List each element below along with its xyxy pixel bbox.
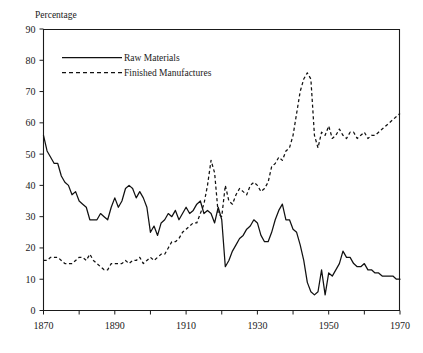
y-tick-label: 40: [26, 180, 36, 191]
y-tick-label: 70: [26, 86, 36, 97]
series-raw-materials: [44, 135, 401, 295]
y-tick-label: 50: [26, 149, 36, 160]
y-tick-label: 30: [26, 211, 36, 222]
figure-container: Percentage 0102030405060708090 187018901…: [0, 0, 423, 353]
y-tick-label: 0: [31, 305, 36, 316]
x-axis-ticks: 187018901910193019501970: [34, 311, 411, 331]
chart-legend: Raw Materials Finished Manufactures: [62, 53, 212, 78]
y-tick-label: 80: [26, 55, 36, 66]
x-tick-label: 1910: [176, 320, 196, 331]
y-tick-label: 90: [26, 24, 36, 35]
x-tick-label: 1890: [105, 320, 125, 331]
x-tick-label: 1870: [34, 320, 54, 331]
y-axis-title: Percentage: [35, 10, 77, 20]
x-tick-label: 1930: [247, 320, 267, 331]
y-tick-label: 60: [26, 117, 36, 128]
plot-frame: [44, 29, 401, 311]
y-tick-label: 20: [26, 242, 36, 253]
legend-label-finished-manufactures: Finished Manufactures: [124, 68, 212, 78]
y-tick-label: 10: [26, 274, 36, 285]
line-chart: Percentage 0102030405060708090 187018901…: [0, 0, 423, 353]
y-axis-ticks: 0102030405060708090: [26, 24, 44, 317]
x-tick-label: 1970: [390, 320, 410, 331]
x-tick-label: 1950: [319, 320, 339, 331]
series-finished-manufactures: [44, 73, 401, 270]
legend-label-raw-materials: Raw Materials: [124, 53, 180, 63]
